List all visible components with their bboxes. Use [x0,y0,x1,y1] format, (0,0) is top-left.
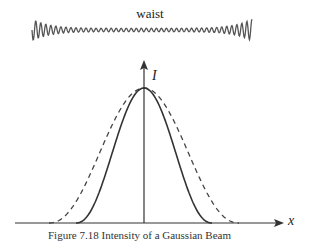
waist-label: waist [0,6,300,22]
intensity-axis-label: I [152,68,157,84]
figure-caption: Figure 7.18 Intensity of a Gaussian Beam [48,229,231,241]
waist-wave [32,19,252,40]
x-axis-label: x [288,213,294,229]
